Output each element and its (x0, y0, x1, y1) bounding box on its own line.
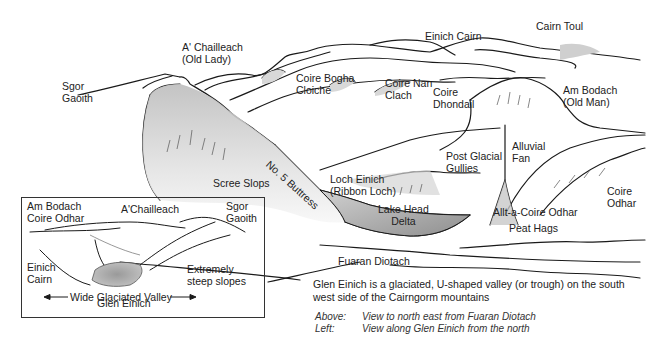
label-lake-head-delta: Lake HeadDelta (378, 203, 429, 227)
label-cairn-toul: Cairn Toul (536, 20, 583, 32)
caption-left-key: Left: (315, 323, 334, 335)
label-alluvial-fan: AlluvialFan (512, 140, 545, 164)
inset-label-einich-cairn: EinichCairn (27, 261, 56, 285)
label-coire-dhondail: CoireDhondail (433, 86, 474, 110)
label-coire-odhar: CoireOdhar (607, 185, 636, 209)
caption-text: Glen Einich is a glaciated, U-shaped val… (313, 278, 643, 304)
label-einich-cairn: Einich Cairn (425, 30, 482, 42)
caption-above-value: View to north east from Fuaran Diotach (362, 311, 536, 323)
caption-left-value: View along Glen Einich from the north (362, 323, 530, 335)
label-scree-slops: Scree Slops (213, 177, 270, 189)
label-coire-bogha-cloiche: Coire BoghaCloiche (296, 72, 354, 96)
label-sgor-gaoith: SgorGaoith (62, 80, 93, 104)
label-peat-hags: Peat Hags (509, 222, 558, 234)
inset-label-a-chailleach: A'Chailleach (121, 203, 179, 215)
inset-label-am-bodach-coire-odhar: Am BodachCoire Odhar (27, 200, 84, 224)
caption-above-key: Above: (315, 311, 346, 323)
label-coire-nan-clach: Coire NanClach (385, 77, 432, 101)
inset-label-extremely-steep-slopes: Extremelysteep slopes (187, 263, 246, 287)
label-fuaran-diotach: Fuaran Diotach (338, 255, 410, 267)
label-a-chailleach: A' Chailleach(Old Lady) (182, 41, 243, 65)
label-am-bodach: Am Bodach(Old Man) (563, 84, 617, 108)
label-loch-einich: Loch Einich(Ribbon Loch) (330, 173, 396, 197)
label-post-glacial-gullies: Post GlacialGullies (446, 150, 502, 174)
inset-label-sgor-gaoith: SgorGaoith (226, 200, 257, 224)
inset-label-wide-glaciated-valley: Wide Glaciated Valley (70, 291, 172, 303)
label-allt-a-coire-odhar: Allt-a-Coire Odhar (493, 206, 578, 218)
